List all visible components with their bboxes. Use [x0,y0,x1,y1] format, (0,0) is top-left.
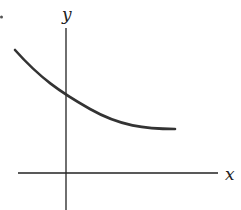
stray-dot [0,16,3,19]
y-axis-label: y [61,4,72,24]
x-axis-label: x [225,164,235,184]
graph-canvas: y x [0,0,241,210]
decay-curve [15,50,175,129]
